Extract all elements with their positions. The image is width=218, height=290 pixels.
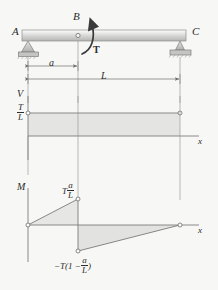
moment-node-c <box>178 223 182 227</box>
point-b-marker <box>76 33 80 37</box>
beam-assembly <box>22 30 186 41</box>
moment-peak-denominator: L <box>67 190 74 200</box>
support-a <box>18 41 39 59</box>
moment-node-min <box>76 249 80 253</box>
label-point-b: B <box>73 11 80 22</box>
figure-container: A B C T a L V T L x M T a L −T(1 − a L )… <box>0 0 218 290</box>
moment-min-denominator: L <box>81 265 88 275</box>
shear-value-numerator: T <box>17 103 24 112</box>
label-shear-x-axis: x <box>198 137 202 146</box>
moment-node-a <box>26 223 30 227</box>
beam-diagram-svg <box>0 0 218 290</box>
shear-value-denominator: L <box>17 112 24 122</box>
support-c <box>169 41 191 58</box>
moment-min-prefix: −T(1 − <box>54 262 81 271</box>
label-support-a: A <box>12 26 19 37</box>
moment-node-peak <box>76 197 80 201</box>
shear-diagram-graphic <box>26 96 199 200</box>
label-shear-axis-v: V <box>17 89 23 99</box>
label-support-c: C <box>192 26 199 37</box>
moment-diagram-graphic <box>26 188 199 262</box>
label-dimension-a: a <box>49 58 54 68</box>
label-dimension-L: L <box>101 71 107 81</box>
label-torque-t: T <box>93 45 100 55</box>
label-moment-axis-m: M <box>17 182 25 192</box>
label-shear-value-TL: T L <box>17 103 24 122</box>
moment-min-numerator: a <box>81 256 88 265</box>
shear-fill <box>28 113 180 136</box>
beam-member <box>22 30 186 41</box>
moment-min-suffix: ) <box>88 262 91 271</box>
shear-node-left <box>26 111 30 115</box>
label-moment-peak: T a L <box>62 181 74 200</box>
label-moment-min: −T(1 − a L ) <box>54 256 91 275</box>
moment-peak-numerator: a <box>67 181 74 190</box>
label-moment-x-axis: x <box>198 226 202 235</box>
